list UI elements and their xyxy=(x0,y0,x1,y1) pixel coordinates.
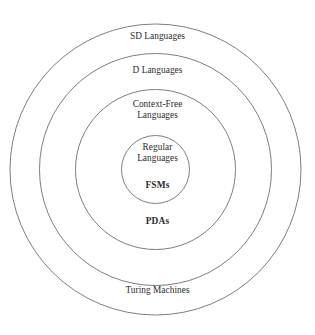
label-regular-languages: Regular Languages xyxy=(0,142,315,165)
label-turing-machines: Turing Machines xyxy=(0,285,315,296)
label-sd-languages: SD Languages xyxy=(0,31,315,42)
chomsky-hierarchy-diagram: SD Languages D Languages Context-Free La… xyxy=(0,0,315,335)
label-d-languages: D Languages xyxy=(0,65,315,76)
d-languages-circle xyxy=(40,54,272,286)
label-context-free-languages: Context-Free Languages xyxy=(0,99,315,122)
label-fsms: FSMs xyxy=(0,180,315,191)
label-pdas: PDAs xyxy=(0,216,315,227)
